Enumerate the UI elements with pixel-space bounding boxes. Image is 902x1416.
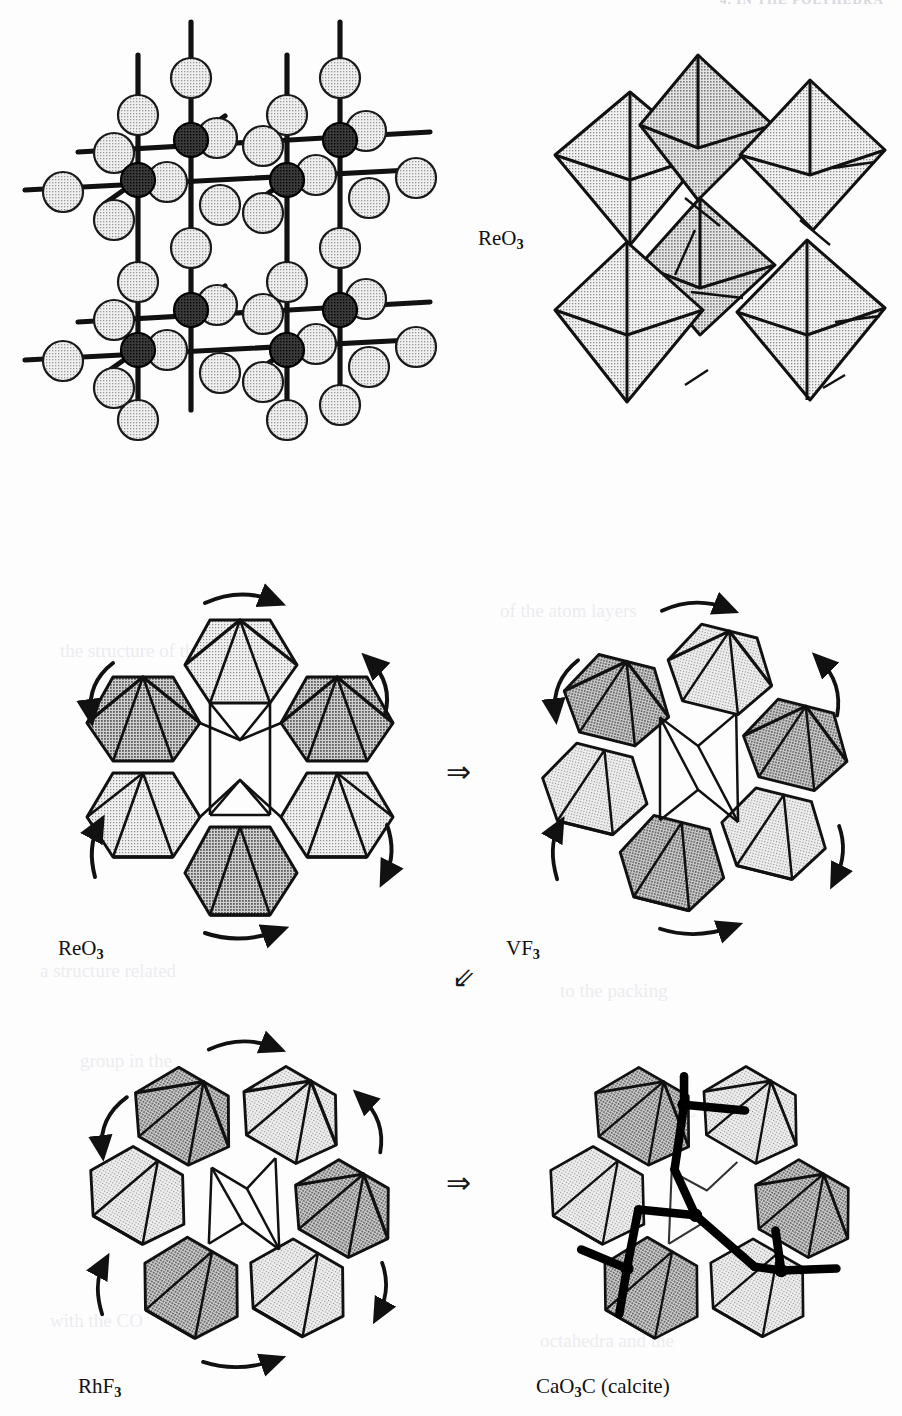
panel-vf3-ring — [500, 585, 900, 945]
label-text: VF — [506, 936, 533, 960]
label-text: ReO — [58, 936, 97, 960]
label-subscript: 3 — [533, 946, 540, 962]
label-subscript: 3 — [97, 946, 104, 962]
arrow-rhf3-to-calcite: ⇒ — [446, 1168, 471, 1198]
panel-rhf3-ring — [45, 1025, 445, 1375]
panel-calcite-ring — [505, 1025, 902, 1375]
ghost-text: a structure related — [40, 960, 176, 982]
ring-octahedra — [87, 620, 393, 915]
ring-octahedra — [532, 1055, 870, 1352]
panel-reo3-ball-stick — [10, 20, 460, 440]
label-reo3-ring: ReO3 — [58, 936, 104, 963]
label-subscript: 3 — [517, 236, 524, 252]
panel-reo3-ring — [35, 585, 455, 945]
label-vf3-ring: VF3 — [506, 936, 540, 963]
ring-octahedra — [533, 618, 857, 916]
figure-page: 4. IN THE POLYHEDRA the structure of the… — [0, 0, 902, 1416]
panel-reo3-octahedra — [545, 30, 895, 430]
oxygen-atoms — [43, 58, 436, 440]
label-rhf3-ring: RhF3 — [78, 1374, 121, 1401]
label-text: ReO — [478, 226, 517, 250]
label-tail: C (calcite) — [582, 1374, 670, 1398]
arrow-vf3-to-rhf3: ⇙ — [452, 964, 475, 992]
label-calcite-ring: CaO3C (calcite) — [536, 1374, 670, 1401]
label-text: RhF — [78, 1374, 114, 1398]
arrow-reo3-to-vf3: ⇒ — [446, 757, 471, 787]
ghost-text: to the packing — [560, 980, 668, 1002]
label-text: CaO — [536, 1374, 575, 1398]
label-subscript: 3 — [114, 1384, 121, 1400]
label-reo3-octahedra: ReO3 — [478, 226, 524, 253]
octahedra-array — [555, 55, 885, 402]
running-head: 4. IN THE POLYHEDRA — [720, 0, 884, 8]
label-subscript: 3 — [575, 1384, 582, 1400]
